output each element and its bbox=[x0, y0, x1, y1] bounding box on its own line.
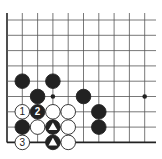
white-stone bbox=[61, 120, 76, 135]
black-stone bbox=[15, 120, 30, 135]
white-stone bbox=[61, 135, 76, 150]
board-grid bbox=[7, 13, 156, 142]
white-stone bbox=[46, 105, 61, 120]
white-stone: 3 bbox=[15, 135, 30, 150]
black-stone bbox=[30, 89, 45, 104]
go-board: 123 bbox=[0, 0, 162, 159]
black-stone bbox=[46, 120, 61, 135]
white-stone bbox=[61, 105, 76, 120]
black-stone bbox=[46, 135, 61, 150]
move-number-label: 3 bbox=[20, 137, 26, 148]
star-point bbox=[142, 94, 147, 99]
white-stone: 1 bbox=[15, 105, 30, 120]
black-stone bbox=[92, 105, 107, 120]
black-stone bbox=[46, 74, 61, 89]
star-point bbox=[51, 94, 56, 99]
black-stone bbox=[15, 74, 30, 89]
black-stone: 2 bbox=[30, 105, 45, 120]
stones-layer: 123 bbox=[15, 74, 106, 150]
black-stone bbox=[92, 120, 107, 135]
move-number-label: 2 bbox=[35, 106, 41, 117]
white-stone bbox=[30, 120, 45, 135]
move-number-label: 1 bbox=[20, 106, 26, 117]
black-stone bbox=[76, 89, 91, 104]
